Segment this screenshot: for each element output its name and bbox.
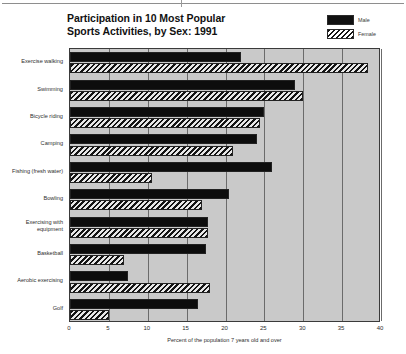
bar-male-golf — [70, 299, 198, 309]
bar-female-exercising-with-equipment — [70, 228, 208, 238]
chart-title-line-2: Sports Activities, by Sex: 1991 — [67, 25, 217, 37]
legend-label-male: Male — [358, 17, 370, 23]
x-tick-label-40: 40 — [377, 325, 384, 331]
category-label-bicycle-riding: Bicycle riding — [30, 113, 63, 120]
chart-legend: Male Female — [327, 14, 405, 42]
bar-male-exercising-with-equipment — [70, 217, 208, 227]
bar-female-golf — [70, 310, 109, 320]
bar-male-camping — [70, 134, 257, 144]
category-label-bowling: Bowling — [43, 195, 63, 202]
gridline-x-35 — [342, 49, 343, 321]
bar-female-camping — [70, 146, 233, 156]
legend-swatch-female-icon — [327, 29, 354, 39]
chart-figure: Participation in 10 Most Popular Sports … — [0, 0, 406, 354]
legend-entry-male: Male — [327, 14, 405, 25]
bar-female-bowling — [70, 200, 202, 210]
bar-female-fishing-fresh-water — [70, 173, 152, 183]
x-tick-label-5: 5 — [106, 325, 109, 331]
x-axis-tick-labels: 0510152025303540 — [0, 325, 406, 337]
plot-area — [69, 48, 380, 322]
legend-label-female: Female — [358, 31, 376, 37]
bar-female-exercise-walking — [70, 63, 368, 73]
top-divider-rule — [2, 3, 404, 4]
bar-male-exercise-walking — [70, 52, 241, 62]
bar-male-bicycle-riding — [70, 107, 264, 117]
bar-male-swimming — [70, 80, 295, 90]
chart-title: Participation in 10 Most Popular Sports … — [67, 12, 277, 37]
legend-swatch-male-icon — [327, 15, 354, 25]
bar-female-swimming — [70, 91, 303, 101]
x-tick-label-20: 20 — [221, 325, 228, 331]
gridline-x-30 — [303, 49, 304, 321]
legend-entry-female: Female — [327, 28, 405, 39]
bar-male-aerobic-exercising — [70, 271, 128, 281]
x-tick-label-0: 0 — [67, 325, 70, 331]
category-label-aerobic-exercising: Aerobic exercising — [17, 277, 63, 284]
bar-male-fishing-fresh-water — [70, 162, 272, 172]
x-tick-label-15: 15 — [182, 325, 189, 331]
bar-female-aerobic-exercising — [70, 283, 210, 293]
top-divider-tick — [181, 0, 182, 7]
category-label-basketball: Basketball — [37, 250, 63, 257]
category-label-exercising-with-equipment: Exercising with equipment — [1, 219, 63, 233]
gridline-x-40 — [381, 49, 382, 321]
bar-male-basketball — [70, 244, 206, 254]
x-tick-label-10: 10 — [143, 325, 150, 331]
x-tick-label-35: 35 — [338, 325, 345, 331]
category-axis-labels: Exercise walkingSwimmingBicycle ridingCa… — [0, 48, 66, 322]
plot-inner — [70, 49, 379, 321]
category-label-exercise-walking: Exercise walking — [21, 58, 63, 65]
bar-female-basketball — [70, 255, 124, 265]
bar-female-bicycle-riding — [70, 118, 260, 128]
category-label-golf: Golf — [53, 305, 63, 312]
category-label-fishing-fresh-water: Fishing (fresh water) — [12, 168, 63, 175]
x-tick-label-25: 25 — [260, 325, 267, 331]
category-label-camping: Camping — [41, 140, 63, 147]
category-label-swimming: Swimming — [37, 86, 63, 93]
x-axis-title: Percent of the population 7 years old an… — [69, 337, 380, 343]
bar-male-bowling — [70, 189, 229, 199]
x-tick-label-30: 30 — [299, 325, 306, 331]
chart-title-line-1: Participation in 10 Most Popular — [67, 12, 225, 24]
